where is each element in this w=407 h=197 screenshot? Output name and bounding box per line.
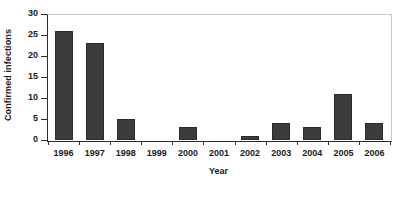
x-axis-tick: [172, 141, 173, 145]
y-axis-tick: [41, 77, 47, 78]
y-axis-tick-label: 0: [14, 135, 38, 144]
x-axis-tick-label: 2002: [235, 146, 266, 160]
bar-2002: [241, 136, 259, 140]
bar-slot: [266, 14, 297, 140]
y-axis-tick: [41, 119, 47, 120]
y-axis-tick-label: 5: [14, 114, 38, 123]
y-axis-tick: [41, 56, 47, 57]
x-axis-tick-label: 1996: [48, 146, 79, 160]
y-axis-tick: [41, 98, 47, 99]
bar-slot: [79, 14, 110, 140]
bar-1996: [55, 31, 73, 140]
y-axis-tick-label: 15: [14, 72, 38, 81]
y-axis-tick-label: 10: [14, 93, 38, 102]
x-axis-tick-label: 2000: [172, 146, 203, 160]
y-axis-tick: [41, 140, 47, 141]
bar-slot: [172, 14, 203, 140]
y-axis-tick-label: 20: [14, 51, 38, 60]
x-axis-tick: [297, 141, 298, 145]
y-axis-title-text: Confirmed infections: [3, 29, 13, 121]
x-axis-tick: [359, 141, 360, 145]
bar-2004: [303, 127, 321, 140]
bar-2003: [272, 123, 290, 140]
x-axis-tick-label: 2003: [266, 146, 297, 160]
x-axis-tick: [266, 141, 267, 145]
x-axis-tick-label: 1999: [141, 146, 172, 160]
x-axis-labels: 1996199719981999200020012002200320042005…: [48, 146, 390, 160]
x-axis-tick: [328, 141, 329, 145]
x-axis-tick-label: 1997: [79, 146, 110, 160]
bar-slot: [328, 14, 359, 140]
x-axis-tick: [110, 141, 111, 145]
bar-1998: [117, 119, 135, 140]
x-axis-title: Year: [47, 166, 390, 176]
bar-slot: [110, 14, 141, 140]
bar-slot: [297, 14, 328, 140]
bar-slot: [141, 14, 172, 140]
y-axis-tick-label: 25: [14, 30, 38, 39]
bar-2006: [365, 123, 383, 140]
x-axis-tick-label: 2004: [297, 146, 328, 160]
x-axis-tick-label: 2006: [359, 146, 390, 160]
x-axis-tick: [48, 141, 49, 145]
x-axis-tick: [79, 141, 80, 145]
bar-slot: [203, 14, 234, 140]
x-axis-tick: [203, 141, 204, 145]
x-axis-tick: [235, 141, 236, 145]
x-axis-ticks: [48, 141, 390, 145]
y-axis-tick: [41, 35, 47, 36]
x-axis-tick: [390, 141, 391, 145]
x-axis-tick-label: 2001: [203, 146, 234, 160]
y-axis-tick: [41, 14, 47, 15]
x-axis-tick-label: 1998: [110, 146, 141, 160]
bar-chart: Confirmed infections 1996199719981999200…: [0, 0, 407, 197]
bar-slot: [48, 14, 79, 140]
bar-slot: [235, 14, 266, 140]
bar-slot: [359, 14, 390, 140]
bar-series: [48, 14, 390, 140]
x-axis-tick-label: 2005: [328, 146, 359, 160]
y-axis-tick-label: 30: [14, 9, 38, 18]
bar-2000: [179, 127, 197, 140]
bar-1997: [86, 43, 104, 140]
bar-2005: [334, 94, 352, 140]
x-axis-tick: [141, 141, 142, 145]
